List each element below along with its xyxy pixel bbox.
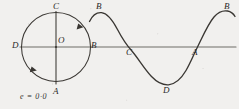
orbit-label-centre-o: O — [58, 36, 65, 45]
curve-label-b-first: B — [96, 2, 102, 11]
orbit-label-left-d: D — [12, 41, 19, 50]
curve-label-b-second: B — [224, 2, 230, 11]
radial-velocity-curve — [90, 11, 236, 85]
orbit-centre-point — [55, 46, 57, 48]
curve-label-d: D — [163, 86, 170, 95]
orbit-velocity-figure: C A D B O B C D A B e = 0·0 — [0, 0, 239, 109]
direction-arrow-lower-icon — [30, 67, 37, 73]
orbit-label-right-b: B — [91, 41, 97, 50]
orbit-label-bottom-a: A — [53, 87, 59, 96]
eccentricity-caption: e = 0·0 — [20, 92, 47, 101]
orbit-label-top-c: C — [53, 2, 59, 11]
curve-label-a: A — [192, 48, 198, 57]
curve-label-c: C — [126, 48, 132, 57]
